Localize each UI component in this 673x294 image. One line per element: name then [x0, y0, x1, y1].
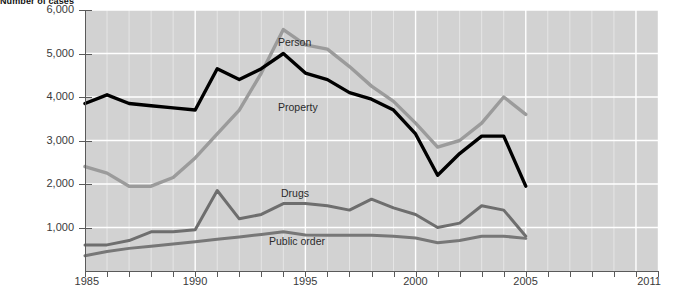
x-axis-tick-mark [570, 271, 571, 277]
y-axis-tick-mark-inner [85, 228, 92, 229]
x-axis-tick-label: 2000 [403, 275, 427, 287]
x-axis-tick-mark [482, 271, 483, 277]
y-axis-tick-label: 6,000 [14, 3, 74, 15]
x-axis-tick-mark [327, 271, 328, 277]
x-axis-tick-mark [349, 271, 350, 277]
x-axis-tick-label: 2005 [513, 275, 537, 287]
x-axis-tick-label: 2011 [637, 275, 661, 287]
y-axis-tick-mark-inner [85, 54, 92, 55]
x-axis-tick-mark [438, 271, 439, 277]
x-axis-tick-mark [261, 271, 262, 277]
x-axis-tick-mark [614, 271, 615, 277]
series-label-property: Property [278, 101, 318, 113]
x-axis-tick-mark [394, 271, 395, 277]
x-axis-tick-mark [592, 271, 593, 277]
x-axis-tick-mark [504, 271, 505, 277]
x-axis-tick-mark [283, 271, 284, 277]
x-axis-tick-mark [151, 271, 152, 277]
y-axis-tick-mark-inner [85, 141, 92, 142]
x-axis-tick-mark [173, 271, 174, 277]
x-axis-tick-mark [217, 271, 218, 277]
x-axis-tick-mark [129, 271, 130, 277]
x-axis-tick-mark [460, 271, 461, 277]
y-axis-tick-mark-inner [85, 10, 92, 11]
x-axis-tick-mark [239, 271, 240, 277]
x-axis-tick-label: 1990 [183, 275, 207, 287]
x-axis-tick-label: 1995 [293, 275, 317, 287]
y-axis-tick-label: 5,000 [14, 47, 74, 59]
y-axis-tick-label: 3,000 [14, 134, 74, 146]
chart-container: Number of cases 1,0002,0003,0004,0005,00… [0, 0, 673, 294]
x-axis-tick-mark [372, 271, 373, 277]
x-axis-tick-mark [107, 271, 108, 277]
x-axis-tick-mark [548, 271, 549, 277]
y-axis-tick-label: 4,000 [14, 90, 74, 102]
y-axis-tick-mark-inner [85, 184, 92, 185]
y-axis-tick-label: 1,000 [14, 221, 74, 233]
y-axis-tick-label: 2,000 [14, 177, 74, 189]
series-label-public-order: Public order [269, 235, 325, 247]
y-axis-tick-mark-inner [85, 97, 92, 98]
chart-svg [0, 0, 673, 294]
series-label-person: Person [278, 36, 311, 48]
x-axis-tick-label: 1985 [75, 275, 99, 287]
series-label-drugs: Drugs [281, 187, 309, 199]
